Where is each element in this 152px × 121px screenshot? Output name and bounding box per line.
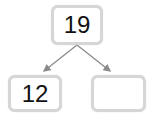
arrow-to-right-part [77, 45, 110, 71]
part-box-right-empty[interactable] [91, 75, 146, 112]
arrow-to-left-part [44, 45, 77, 71]
whole-value: 19 [64, 11, 91, 39]
part-value-left: 12 [22, 80, 49, 108]
whole-box: 19 [51, 5, 103, 45]
part-box-left: 12 [8, 75, 62, 112]
